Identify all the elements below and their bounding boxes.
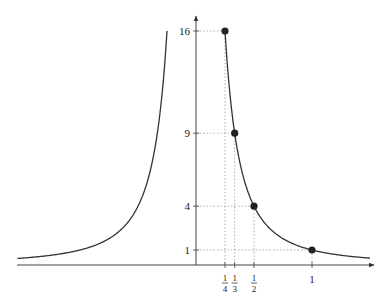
x-tick-denominator: 2 xyxy=(252,284,257,294)
data-point xyxy=(221,27,228,34)
x-tick-numerator: 1 xyxy=(252,273,257,283)
y-tick-label: 9 xyxy=(185,127,191,139)
x-ticks: 1413121 xyxy=(222,262,315,294)
data-point xyxy=(250,203,257,210)
y-tick-label: 1 xyxy=(185,244,191,256)
x-tick-label: 1 xyxy=(309,273,315,285)
chart: 14916 1413121 xyxy=(0,0,385,301)
x-tick-denominator: 4 xyxy=(223,284,228,294)
curve-left-branch xyxy=(17,31,167,258)
y-tick-label: 16 xyxy=(179,25,191,37)
x-tick-denominator: 3 xyxy=(232,284,237,294)
curve-right-branch xyxy=(225,31,370,258)
y-tick-label: 4 xyxy=(185,200,191,212)
data-point xyxy=(308,246,315,253)
data-point xyxy=(231,130,238,137)
x-tick-numerator: 1 xyxy=(232,273,237,283)
x-tick-numerator: 1 xyxy=(223,273,228,283)
dotted-guides xyxy=(196,31,312,265)
